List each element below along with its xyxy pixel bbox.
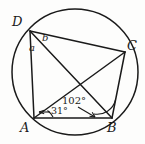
vertex-label-A: A <box>20 121 29 134</box>
circumscribed-circle <box>12 9 138 135</box>
segment-label-b: b <box>42 33 48 43</box>
vertex-label-B: B <box>107 121 117 134</box>
angle-leader-line-102 <box>78 107 95 117</box>
angle-label-31: 31° <box>51 106 68 116</box>
vertex-label-C: C <box>127 39 137 52</box>
geometry-figure: D C B A a b 102° 31° <box>0 0 145 144</box>
segment-CB <box>112 52 125 118</box>
segment-label-a: a <box>29 43 35 53</box>
vertex-label-D: D <box>12 15 22 28</box>
